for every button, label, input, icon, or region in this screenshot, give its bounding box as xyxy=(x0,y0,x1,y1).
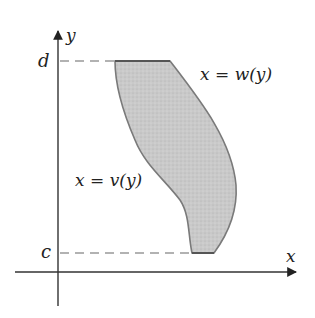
shaded-region xyxy=(115,61,236,253)
c-label: c xyxy=(41,241,51,262)
x-axis-label: x xyxy=(286,246,296,266)
right-curve-label: x = w(y) xyxy=(200,64,272,84)
d-label: d xyxy=(38,50,50,71)
left-curve-label: x = v(y) xyxy=(75,170,142,190)
y-axis-label: y xyxy=(65,25,76,45)
diagram-canvas: y x d c x = w(y) x = v(y) xyxy=(0,0,315,318)
